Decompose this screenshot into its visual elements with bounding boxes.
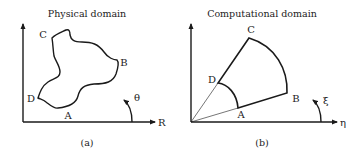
radial-guide-a <box>191 108 238 122</box>
radial-guide-d <box>191 83 218 122</box>
point-c-label: C <box>39 29 47 40</box>
point-a-label: A <box>63 110 72 121</box>
point-b-label: B <box>120 57 127 68</box>
theta-label: θ <box>134 92 140 103</box>
point-d-label: D <box>208 74 216 85</box>
panel-computational-domain: Computational domain η C D A B ξ (b) <box>191 8 346 148</box>
panel-physical-domain: Physical domain R C B D A θ (a) <box>23 8 166 148</box>
point-b-label: B <box>292 93 299 104</box>
eta-axis-label: η <box>340 117 346 128</box>
point-a-label: A <box>236 109 245 120</box>
r-axis-label: R <box>158 117 166 128</box>
domain-mapping-diagram: Physical domain R C B D A θ (a) Computat… <box>0 0 359 154</box>
xi-label: ξ <box>323 95 329 106</box>
theta-direction-arrow <box>124 100 132 122</box>
point-c-label: C <box>247 24 255 35</box>
physical-domain-boundary <box>38 30 118 108</box>
panel-a-title: Physical domain <box>48 8 126 19</box>
panel-b-title: Computational domain <box>207 8 317 19</box>
point-d-label: D <box>27 93 35 104</box>
panel-b-caption: (b) <box>255 137 269 148</box>
panel-a-caption: (a) <box>80 137 93 148</box>
xi-direction-arrow <box>313 100 321 122</box>
computational-domain-boundary <box>218 38 287 108</box>
